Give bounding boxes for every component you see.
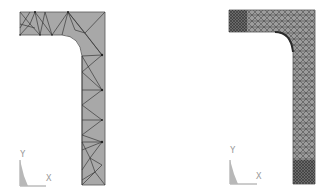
fine-mesh-panel: Y X	[165, 0, 330, 194]
y-axis-label: Y	[20, 150, 25, 159]
coarse-mesh-panel: Y X	[0, 0, 165, 194]
y-axis-label: Y	[230, 146, 235, 155]
coordinate-triad-icon	[20, 160, 46, 186]
coordinate-triad-icon	[230, 160, 257, 184]
fine-mesh-drawing	[165, 0, 330, 194]
coarse-mesh-drawing	[0, 0, 165, 194]
x-axis-label: X	[46, 174, 51, 183]
x-axis-label: X	[256, 172, 261, 181]
